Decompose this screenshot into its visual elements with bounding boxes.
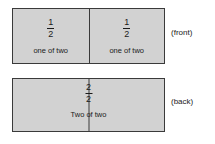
back-bar-caption: Two of two (71, 110, 107, 119)
fraction-denominator: 2 (123, 28, 130, 39)
fraction-one-half-right: 1 2 (123, 18, 130, 39)
fraction-numerator: 1 (123, 18, 130, 28)
back-bar: 2 2 Two of two (12, 78, 165, 132)
front-label: (front) (171, 28, 192, 37)
fraction-diagram: 1 2 one of two 1 2 one of two 2 2 Two of… (0, 0, 215, 144)
fraction-one-half-left: 1 2 (47, 18, 54, 39)
front-bar: 1 2 one of two 1 2 one of two (12, 8, 165, 64)
front-bar-cell-right-caption: one of two (109, 46, 144, 55)
front-bar-cell-left: 1 2 one of two (13, 9, 89, 63)
front-bar-cell-right: 1 2 one of two (89, 9, 165, 63)
back-label: (back) (171, 97, 193, 106)
fraction-numerator: 2 (85, 83, 92, 93)
fraction-denominator: 2 (47, 28, 54, 39)
fraction-two-halves: 2 2 (85, 83, 92, 104)
front-bar-cell-left-caption: one of two (33, 46, 68, 55)
fraction-numerator: 1 (47, 18, 54, 28)
back-bar-inner: 2 2 Two of two (13, 79, 164, 131)
fraction-denominator: 2 (85, 93, 92, 104)
